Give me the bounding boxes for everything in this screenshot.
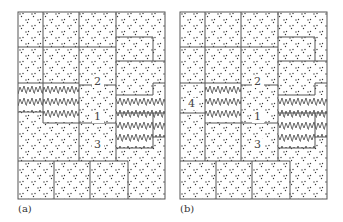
- zigzag-region: [278, 113, 315, 148]
- zigzag-region: [153, 113, 165, 137]
- zigzag-region: [116, 113, 153, 148]
- zigzag-region: [315, 113, 327, 137]
- panel-b: 2 1 3 4: [180, 12, 327, 199]
- zigzag-region: [116, 95, 165, 113]
- region-label-1: 1: [254, 110, 261, 123]
- region-label-4: 4: [188, 97, 195, 110]
- figure-canvas: 2 1 3 (a): [0, 0, 343, 222]
- zigzag-region: [278, 95, 327, 113]
- region-label-2: 2: [94, 75, 101, 88]
- panel-a: 2 1 3: [18, 12, 165, 199]
- zigzag-region: [43, 112, 79, 123]
- region-label-1: 1: [94, 110, 101, 123]
- region-label-2: 2: [254, 75, 261, 88]
- zigzag-region: [18, 83, 79, 112]
- region-label-3: 3: [254, 138, 261, 151]
- region-label-3: 3: [94, 138, 101, 151]
- caption-b: (b): [180, 203, 194, 214]
- zigzag-region: [205, 83, 241, 123]
- caption-a: (a): [18, 203, 32, 214]
